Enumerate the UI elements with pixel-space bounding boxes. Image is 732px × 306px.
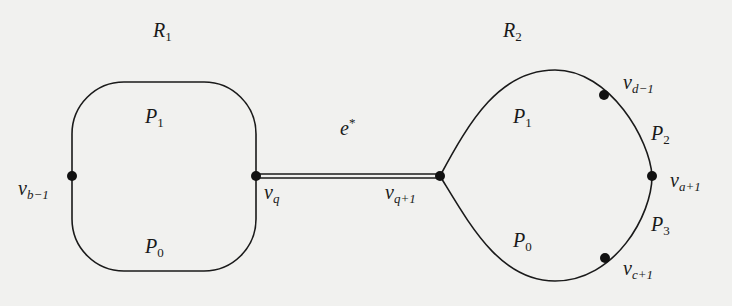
left-path-label-p1: P1 bbox=[145, 106, 164, 129]
vertex-label-v-a-plus-1: va+1 bbox=[670, 170, 701, 193]
vertex-v-q-plus-1 bbox=[435, 171, 445, 181]
vertex-label-v-q-plus-1: vq+1 bbox=[385, 182, 416, 205]
vertex-label-v-d-minus-1: vd−1 bbox=[623, 72, 654, 95]
vertex-label-v-q: vq bbox=[264, 182, 279, 205]
right-path-label-p1: P1 bbox=[513, 106, 532, 129]
right-path-label-p0: P0 bbox=[513, 230, 532, 253]
right-cycle bbox=[440, 70, 652, 281]
vertex-label-v-c-plus-1: vc+1 bbox=[623, 258, 653, 281]
diagram-canvas: R1 R2 e* P1 P0 vb−1 vq P1 P0 P2 P3 vq+1 … bbox=[0, 0, 732, 306]
vertex-v-c-plus-1 bbox=[600, 253, 610, 263]
vertex-v-a-plus-1 bbox=[647, 171, 657, 181]
left-cycle bbox=[72, 82, 256, 271]
region-label-r2: R2 bbox=[503, 20, 522, 43]
double-edge-e-star bbox=[256, 174, 440, 178]
edge-label-e-star: e* bbox=[340, 116, 355, 138]
vertex-v-b-minus-1 bbox=[67, 171, 77, 181]
region-label-r1: R1 bbox=[153, 20, 172, 43]
vertex-v-d-minus-1 bbox=[599, 90, 609, 100]
vertex-label-v-b-minus-1: vb−1 bbox=[18, 178, 49, 201]
right-path-label-p3: P3 bbox=[651, 214, 670, 237]
left-path-label-p0: P0 bbox=[145, 236, 164, 259]
right-path-label-p2: P2 bbox=[651, 123, 670, 146]
vertex-v-q bbox=[251, 171, 261, 181]
